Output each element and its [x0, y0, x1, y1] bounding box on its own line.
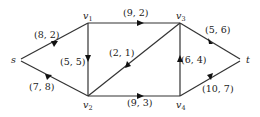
edge-label-v1-v2: (5, 5): [60, 56, 86, 67]
arrow-v1-v3-icon: [137, 20, 144, 26]
edge-label-v3-v2: (2, 1): [109, 47, 135, 58]
node-v1-label: v1: [83, 10, 93, 23]
flow-network-diagram: s v1 v2 v3 v4 t (8, 2) (7, 8) (5, 5) (9,…: [0, 0, 260, 117]
edge-label-v4-t: (10, 7): [202, 83, 234, 94]
edge-label-v4-v3: (6, 4): [181, 54, 207, 65]
arrow-s-v1-icon: [51, 41, 58, 47]
node-t-label: t: [246, 54, 250, 65]
edge-label-s-v2: (7, 8): [29, 81, 55, 92]
edge-label-v2-v4: (9, 3): [127, 97, 153, 108]
node-v3-label: v3: [176, 10, 186, 23]
edge-v3-v2: [88, 23, 180, 96]
edge-label-v3-t: (5, 6): [205, 24, 231, 35]
arrow-v3-t-icon: [208, 38, 213, 44]
node-v2-label: v2: [83, 99, 93, 112]
node-v4-label: v4: [176, 99, 186, 112]
edge-label-s-v1: (8, 2): [34, 29, 60, 40]
arrow-v1-v2-icon: [85, 55, 91, 62]
node-s-label: s: [11, 54, 16, 65]
edge-label-v1-v3: (9, 2): [123, 7, 149, 18]
